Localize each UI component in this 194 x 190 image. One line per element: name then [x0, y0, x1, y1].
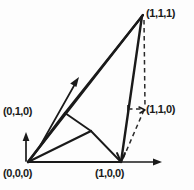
y-axis-shaft	[40, 84, 75, 146]
edge-010-junction	[65, 113, 91, 131]
dashed-edges	[122, 20, 145, 161]
axis-arrows	[23, 77, 162, 165]
solid-edges	[28, 15, 143, 162]
edge-111-110-dashed	[144, 20, 145, 107]
z-axis-arrowhead	[23, 132, 30, 141]
vertex-label-111: (1,1,1)	[146, 8, 175, 19]
vertex-label-010: (0,1,0)	[3, 106, 32, 117]
y-axis-arrowhead	[70, 77, 79, 87]
unit-cube-figure: (1,1,1) (0,1,0) (1,1,0) (0,0,0) (1,0,0)	[0, 0, 194, 190]
edge-100-junction	[91, 131, 121, 162]
vertex-label-100: (1,0,0)	[95, 168, 124, 179]
vertex-label-000: (0,0,0)	[3, 168, 32, 179]
figure-canvas	[0, 0, 194, 190]
vertex-label-110: (1,1,0)	[146, 104, 175, 115]
x-axis-arrowhead	[153, 159, 162, 166]
tick-arrowhead	[139, 107, 145, 113]
edge-000-junction	[28, 131, 91, 162]
